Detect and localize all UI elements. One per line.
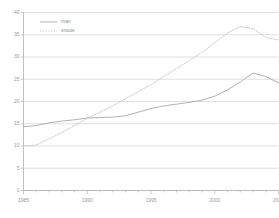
y-tick-label: 35 <box>14 31 20 37</box>
x-tick-label: 1995 <box>145 197 156 203</box>
x-tick-label: 1990 <box>82 197 93 203</box>
legend-label-man: man <box>61 18 71 24</box>
series-line-man <box>24 73 279 127</box>
x-tick-label: 2005 <box>273 197 279 203</box>
chart-canvas: 0510152025303540 19851990199520002005 ma… <box>0 0 279 218</box>
y-tick-label: 0 <box>17 187 20 193</box>
x-tick-label: 1985 <box>18 197 29 203</box>
legend-label-vrouw: vrouw <box>61 27 75 33</box>
y-tick-label: 30 <box>14 53 20 59</box>
y-tick-label: 40 <box>14 9 20 15</box>
chart-legend: manvrouw <box>40 18 75 33</box>
line-chart: 0510152025303540 19851990199520002005 ma… <box>0 0 279 218</box>
x-tick-label: 2000 <box>209 197 220 203</box>
y-tick-label: 25 <box>14 76 20 82</box>
grid-lines <box>24 13 279 191</box>
y-axis: 0510152025303540 <box>14 9 24 193</box>
y-tick-label: 5 <box>17 165 20 171</box>
y-tick-label: 15 <box>14 120 20 126</box>
y-tick-label: 10 <box>14 142 20 148</box>
series-line-vrouw <box>24 27 279 146</box>
series-lines <box>24 27 279 146</box>
y-tick-label: 20 <box>14 98 20 104</box>
x-axis: 19851990199520002005 <box>18 191 279 203</box>
